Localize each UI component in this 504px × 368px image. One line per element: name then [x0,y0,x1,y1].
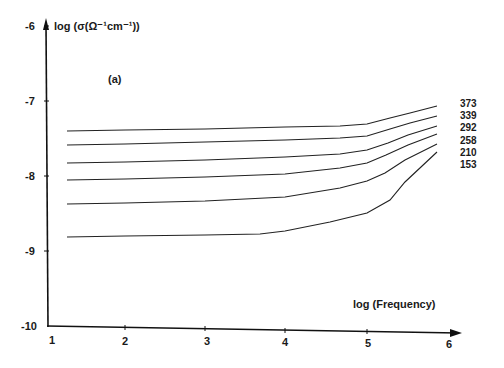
y-tick-label: -9 [25,245,35,257]
series-label-258: 258 [460,135,477,146]
series-label-339: 339 [460,110,477,121]
curve-210 [67,144,437,204]
curve-153 [67,152,437,237]
x-tick-label: 4 [282,336,289,348]
series-label-292: 292 [460,122,477,133]
chart: -6 -7 -8 -9 -10 1 2 3 4 5 6 log (σ(Ω⁻¹cm… [0,0,504,368]
x-axis [47,326,458,333]
y-tick-label: -10 [21,320,37,332]
x-axis-label: log (Frequency) [353,298,436,310]
y-tick-label: -8 [25,170,35,182]
x-tick-label: 6 [446,338,452,350]
x-axis-arrow-icon [450,329,462,337]
x-tick-label: 2 [122,335,128,347]
series-label-153: 153 [460,159,477,170]
y-tick-label: -6 [25,20,35,32]
series-label-210: 210 [460,147,477,158]
y-tick-label: -7 [25,95,35,107]
x-tick-label: 5 [365,337,371,349]
y-axis-arrow-icon [43,18,49,30]
curve-373 [67,106,437,131]
panel-label: (a) [108,73,122,85]
x-tick-label: 3 [204,335,210,347]
y-axis-label: log (σ(Ω⁻¹cm⁻¹)) [54,20,140,32]
series-label-373: 373 [460,98,477,109]
curves [67,106,437,237]
x-tick-label: 1 [49,334,55,346]
